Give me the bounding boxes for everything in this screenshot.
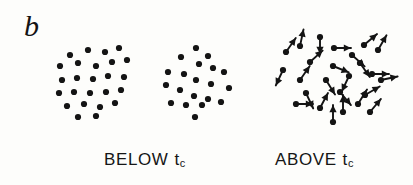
spin-arrow [276, 67, 287, 86]
spin-dot [67, 52, 73, 58]
arrow-tail-dot [375, 47, 381, 53]
arrow-head [344, 44, 351, 51]
spin-dot [112, 100, 118, 106]
arrow-tail-dot [357, 60, 363, 66]
arrow-tail-dot [323, 77, 329, 83]
spin-dot [93, 63, 99, 69]
caption-below-text: BELOW [104, 150, 168, 169]
arrow-head [303, 66, 310, 74]
arrow-head [382, 70, 389, 77]
spin-arrow [330, 63, 349, 73]
spin-dot [196, 61, 202, 67]
spin-dot [218, 99, 224, 105]
arrow-tail-dot [346, 73, 352, 79]
arrow-tail-dot [369, 71, 375, 77]
spin-dot [75, 60, 81, 66]
spin-dot [103, 89, 109, 95]
figure-panel-b: b BELOWtc ABOVEtc [0, 0, 413, 185]
spin-dot [226, 85, 232, 91]
spin-dot [71, 89, 77, 95]
spin-arrow [375, 35, 387, 53]
arrow-tail-dot [303, 90, 309, 96]
arrow-head [299, 29, 306, 37]
arrow-tail-dot [317, 34, 323, 40]
spin-dot [205, 96, 211, 102]
arrow-tail-dot [297, 77, 303, 83]
spin-dot [74, 75, 80, 81]
spin-arrow [342, 73, 353, 92]
spin-arrow [378, 74, 398, 83]
caption-below-tc: BELOWtc [104, 151, 185, 169]
spin-dot [93, 113, 99, 119]
arrow-tail-dot [283, 49, 289, 55]
spin-arrow [297, 29, 306, 49]
arrow-head [390, 74, 398, 81]
spin-arrow [307, 51, 323, 65]
spin-dot [64, 103, 70, 109]
spin-dot [193, 77, 199, 83]
spin-dot [191, 93, 197, 99]
arrow-cluster-above [276, 29, 398, 125]
spin-dot [75, 114, 81, 120]
spin-dot [57, 63, 63, 69]
spin-arrow [323, 77, 335, 95]
arrow-tail-dot [367, 109, 373, 115]
spin-arrow [357, 60, 370, 77]
spin-dot [121, 74, 127, 80]
caption-above-subscript: c [348, 157, 354, 169]
spin-arrow [297, 66, 310, 83]
arrow-head [363, 69, 370, 77]
arrow-tail-dot [330, 119, 336, 125]
spin-dot [181, 71, 187, 77]
dot-cluster-below-right [163, 45, 232, 120]
arrow-tail-dot [331, 45, 337, 51]
spin-dot [163, 82, 169, 88]
arrow-tail-dot [355, 101, 361, 107]
spin-dot [210, 65, 216, 71]
spin-arrow [361, 34, 377, 48]
arrow-head [289, 38, 296, 46]
arrow-tail-dot [297, 43, 303, 49]
spin-dot [87, 90, 93, 96]
spin-arrow [331, 44, 351, 51]
panel-label: b [24, 11, 39, 41]
spin-dot [193, 45, 199, 51]
arrow-tail-dot [293, 101, 299, 107]
spin-dot [192, 114, 198, 120]
spin-arrow [317, 93, 328, 111]
spin-dot [56, 90, 62, 96]
spin-arrow [367, 99, 381, 115]
dot-cluster-below-left [56, 45, 130, 120]
arrow-tail-dot [317, 105, 323, 111]
spin-dot [208, 81, 214, 87]
arrow-tail-dot [340, 109, 346, 115]
spin-dot [178, 54, 184, 60]
spin-dot [221, 69, 227, 75]
arrow-tail-dot [280, 67, 286, 73]
spin-dot [109, 59, 115, 65]
spin-arrow [355, 90, 367, 108]
spin-dot [90, 76, 96, 82]
caption-above-tc: ABOVEtc [275, 151, 353, 169]
arrow-head [329, 105, 336, 112]
spin-dot [205, 53, 211, 59]
spin-dot [177, 87, 183, 93]
arrow-tail-dot [349, 52, 355, 58]
spin-dot [97, 104, 103, 110]
spin-dot [85, 47, 91, 53]
spin-arrow [283, 38, 296, 55]
spin-dot [118, 87, 124, 93]
spin-arrow [329, 105, 336, 125]
arrow-tail-dot [361, 42, 367, 48]
spin-dot [116, 45, 122, 51]
spin-arrow [369, 70, 389, 77]
spin-dot [199, 102, 205, 108]
arrow-tail-dot [307, 59, 313, 65]
spin-dot [168, 100, 174, 106]
spin-dot [183, 102, 189, 108]
arrow-tail-dot [330, 63, 336, 69]
spin-dot [124, 57, 130, 63]
spin-dot [59, 77, 65, 83]
spin-dot [165, 69, 171, 75]
arrow-tail-dot [378, 77, 384, 83]
